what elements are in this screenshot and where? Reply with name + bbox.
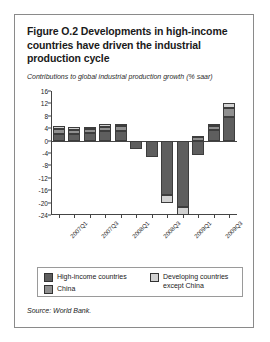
x-tick-mark bbox=[74, 215, 75, 218]
legend-swatch-developing bbox=[150, 273, 159, 282]
bar-segment bbox=[53, 134, 65, 141]
bar-segment bbox=[208, 126, 220, 130]
bar-segment bbox=[223, 117, 235, 140]
x-tick-mark bbox=[229, 215, 230, 218]
x-tick-label: 2007Q3 bbox=[100, 220, 119, 239]
bar-segment bbox=[115, 131, 127, 141]
x-tick-mark bbox=[214, 215, 215, 218]
bar-segment bbox=[223, 103, 235, 108]
bar-segment bbox=[53, 129, 65, 133]
bar-segment bbox=[99, 131, 111, 140]
chart-bar bbox=[177, 91, 189, 215]
chart-bar bbox=[115, 91, 127, 215]
chart-bar bbox=[99, 91, 111, 215]
figure-page: Figure O.2 Developments in high-income c… bbox=[0, 0, 270, 342]
bar-segment bbox=[84, 133, 96, 140]
y-tick-mark bbox=[48, 215, 51, 216]
chart-bar bbox=[130, 91, 142, 215]
figure-subtitle: Contributions to global industrial produ… bbox=[27, 72, 247, 81]
bar-segment bbox=[99, 127, 111, 132]
bar-segment bbox=[84, 127, 96, 129]
legend-label-high-income: High-income countries bbox=[57, 272, 127, 281]
x-tick-label: 2008Q3 bbox=[162, 220, 181, 239]
bar-segment bbox=[223, 108, 235, 117]
x-tick-mark bbox=[105, 215, 106, 218]
x-tick-label: 2008Q1 bbox=[131, 220, 150, 239]
legend-item-china: China bbox=[44, 284, 152, 294]
chart-bar bbox=[161, 91, 173, 215]
bar-segment bbox=[192, 136, 204, 138]
chart-bar bbox=[223, 91, 235, 215]
legend-swatch-high-income bbox=[44, 273, 53, 282]
bar-segment bbox=[146, 141, 158, 157]
chart-bar bbox=[68, 91, 80, 215]
y-tick-mark bbox=[48, 103, 51, 104]
bar-segment bbox=[115, 124, 127, 126]
bar-segment bbox=[68, 127, 80, 129]
legend-swatch-china bbox=[44, 285, 53, 294]
chart-bar bbox=[192, 91, 204, 215]
bar-segment bbox=[84, 129, 96, 133]
chart-axes: 1612840-4-8-12-16-20-24 bbox=[51, 91, 237, 215]
bar-segment bbox=[161, 195, 173, 203]
bar-segment bbox=[68, 130, 80, 134]
figure-source: Source: World Bank. bbox=[27, 307, 91, 314]
chart-bar bbox=[53, 91, 65, 215]
legend-item-developing: Developing countries except China bbox=[150, 272, 242, 290]
y-tick-mark bbox=[48, 91, 51, 92]
figure-title: Figure O.2 Developments in high-income c… bbox=[27, 25, 243, 66]
chart-legend: High-income countries China Developing c… bbox=[37, 267, 243, 297]
bar-segment bbox=[68, 134, 80, 141]
x-tick-label: 2009Q3 bbox=[224, 220, 243, 239]
chart-bar bbox=[146, 91, 158, 215]
chart-bar bbox=[208, 91, 220, 215]
chart-bar bbox=[84, 91, 96, 215]
bar-segment bbox=[208, 130, 220, 141]
bar-segment bbox=[130, 141, 142, 149]
y-axis-line bbox=[51, 91, 52, 215]
x-tick-mark bbox=[59, 215, 60, 218]
legend-item-high-income: High-income countries bbox=[44, 272, 152, 282]
bar-segment bbox=[192, 141, 204, 155]
x-tick-label: 2007Q1 bbox=[69, 220, 88, 239]
bar-segment bbox=[161, 141, 173, 195]
x-tick-label: 2009Q1 bbox=[193, 220, 212, 239]
y-tick-mark bbox=[48, 190, 51, 191]
chart-plot-area: 1612840-4-8-12-16-20-24 2007Q12007Q32008… bbox=[27, 87, 243, 237]
y-tick-mark bbox=[48, 202, 51, 203]
x-tick-mark bbox=[183, 215, 184, 218]
bar-segment bbox=[177, 141, 189, 208]
y-tick-mark bbox=[48, 128, 51, 129]
bar-segment bbox=[53, 126, 65, 129]
x-tick-mark bbox=[152, 215, 153, 218]
y-tick-mark bbox=[48, 177, 51, 178]
legend-label-china: China bbox=[57, 284, 75, 293]
x-tick-mark bbox=[121, 215, 122, 218]
figure-box: Figure O.2 Developments in high-income c… bbox=[14, 14, 254, 328]
y-tick-mark bbox=[48, 153, 51, 154]
x-tick-mark bbox=[136, 215, 137, 218]
y-tick-mark bbox=[48, 115, 51, 116]
bar-segment bbox=[208, 124, 220, 126]
x-tick-mark bbox=[198, 215, 199, 218]
legend-label-developing: Developing countries except China bbox=[163, 272, 242, 290]
x-tick-mark bbox=[90, 215, 91, 218]
bar-segment bbox=[115, 126, 127, 131]
bar-segment bbox=[99, 124, 111, 126]
y-tick-mark bbox=[48, 165, 51, 166]
x-tick-mark bbox=[167, 215, 168, 218]
